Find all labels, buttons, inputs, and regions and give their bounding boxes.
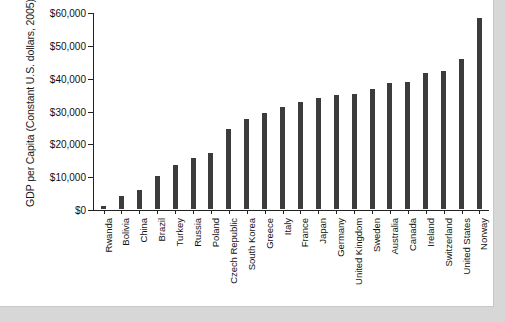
- bar: [280, 107, 285, 209]
- x-axis-tick-label: Italy: [287, 201, 298, 218]
- x-axis-tick-label-text: Greece: [263, 218, 274, 249]
- bar: [334, 95, 339, 209]
- x-axis-tick: [479, 211, 480, 214]
- x-axis-tick-label: Russia: [197, 189, 208, 218]
- x-axis-tick: [336, 211, 337, 214]
- x-axis-tick-label-text: Russia: [192, 218, 203, 247]
- x-axis-tick-label: France: [304, 189, 315, 218]
- bar: [226, 129, 231, 209]
- x-axis-tick-label: Rwanda: [108, 183, 119, 218]
- x-axis-tick-label-text: Australia: [388, 218, 399, 255]
- x-axis-tick-label: Norway: [483, 186, 494, 218]
- x-axis-tick-label: Czech Republic: [233, 152, 244, 218]
- x-axis-tick: [247, 211, 248, 214]
- x-axis-tick-label-text: Germany: [335, 218, 346, 257]
- x-axis-tick-label-text: Czech Republic: [227, 218, 238, 284]
- x-axis-tick: [300, 211, 301, 214]
- x-axis-tick: [408, 211, 409, 214]
- bar: [298, 102, 303, 209]
- y-axis-tick: [88, 13, 93, 14]
- x-axis-tick-label: Brazil: [161, 195, 172, 218]
- gdp-per-capita-bar-chart: GDP per Capita (Constant U.S. dollars, 2…: [0, 0, 493, 306]
- bar: [173, 165, 178, 209]
- x-axis-tick-label: Australia: [394, 181, 405, 218]
- x-axis-tick: [354, 211, 355, 214]
- bar: [477, 18, 482, 209]
- x-axis-tick: [318, 211, 319, 214]
- y-axis-tick-label: $50,000: [50, 40, 86, 51]
- bar: [155, 176, 160, 209]
- bar: [405, 82, 410, 209]
- x-axis-tick-label: Japan: [322, 192, 333, 218]
- y-axis-tick-label: $10,000: [50, 172, 86, 183]
- x-axis-tick-label-text: Bolivia: [120, 218, 131, 246]
- y-axis-tick-label: $20,000: [50, 139, 86, 150]
- x-axis-tick: [444, 211, 445, 214]
- x-axis-tick: [372, 211, 373, 214]
- x-axis-tick: [426, 211, 427, 214]
- x-axis-tick-label-text: Switzerland: [442, 218, 453, 267]
- x-axis-tick: [283, 211, 284, 214]
- x-axis-tick: [157, 211, 158, 214]
- x-axis-tick-label-text: United States: [460, 218, 471, 274]
- bar: [316, 98, 321, 209]
- y-axis-line: [93, 13, 94, 211]
- x-axis-tick-label: Germany: [340, 179, 351, 218]
- bar: [208, 153, 213, 209]
- bar: [423, 73, 428, 209]
- bar: [191, 158, 196, 209]
- y-axis-tick-label: $40,000: [50, 73, 86, 84]
- x-axis-tick-label-text: France: [299, 218, 310, 247]
- x-axis-tick-label: Canada: [412, 185, 423, 218]
- x-axis-tick-label: Bolivia: [125, 190, 136, 218]
- bar: [119, 196, 124, 209]
- bar: [459, 59, 464, 209]
- bar: [352, 94, 357, 209]
- x-axis-tick: [462, 211, 463, 214]
- x-axis-tick-label-text: South Korea: [245, 218, 256, 270]
- x-axis-tick: [121, 211, 122, 214]
- y-axis-tick: [88, 144, 93, 145]
- x-axis-tick-label-text: Italy: [281, 218, 292, 235]
- bar: [441, 71, 446, 209]
- y-axis-tick-label: $30,000: [50, 106, 86, 117]
- x-axis-tick-label: Greece: [269, 187, 280, 218]
- x-axis-tick: [390, 211, 391, 214]
- x-axis-tick-label-text: Ireland: [424, 218, 435, 247]
- bar: [370, 89, 375, 209]
- y-axis-tick: [88, 177, 93, 178]
- x-axis-tick-label: South Korea: [251, 166, 262, 218]
- y-axis-tick-label: $0: [75, 205, 86, 216]
- x-axis-tick: [139, 211, 140, 214]
- x-axis-tick-label: Sweden: [376, 184, 387, 218]
- y-axis-tick: [88, 79, 93, 80]
- plot-area: $0$10,000$20,000$30,000$40,000$50,000$60…: [93, 13, 489, 210]
- x-axis-tick-label: Turkey: [179, 190, 190, 218]
- y-axis-tick: [88, 112, 93, 113]
- x-axis-tick-label: Poland: [215, 189, 226, 218]
- x-axis-tick: [265, 211, 266, 214]
- x-axis-tick-label-text: Poland: [209, 218, 220, 247]
- x-axis-tick-label-text: China: [138, 218, 149, 243]
- y-axis-title: GDP per Capita (Constant U.S. dollars, 2…: [24, 0, 40, 208]
- x-axis-tick-label-text: United Kingdom: [353, 218, 364, 285]
- x-axis-tick: [193, 211, 194, 214]
- bar: [262, 113, 267, 209]
- bar: [244, 119, 249, 209]
- x-axis-tick-label: Ireland: [430, 189, 441, 218]
- x-axis-tick-label-text: Sweden: [371, 218, 382, 252]
- x-axis-tick-label-text: Norway: [478, 218, 489, 250]
- page-canvas: GDP per Capita (Constant U.S. dollars, 2…: [0, 0, 494, 307]
- x-axis-tick-label: United States: [466, 162, 477, 218]
- bar: [387, 83, 392, 209]
- x-axis-tick: [229, 211, 230, 214]
- x-axis-tick-label-text: Canada: [406, 218, 417, 251]
- bar: [137, 190, 142, 209]
- x-axis-tick-label: United Kingdom: [358, 151, 369, 218]
- y-axis-tick-label: $60,000: [50, 8, 86, 19]
- x-axis-tick-label-text: Brazil: [156, 218, 167, 241]
- x-axis-tick: [104, 211, 105, 214]
- x-axis-tick: [175, 211, 176, 214]
- y-axis-tick: [88, 210, 93, 211]
- bar: [101, 206, 106, 209]
